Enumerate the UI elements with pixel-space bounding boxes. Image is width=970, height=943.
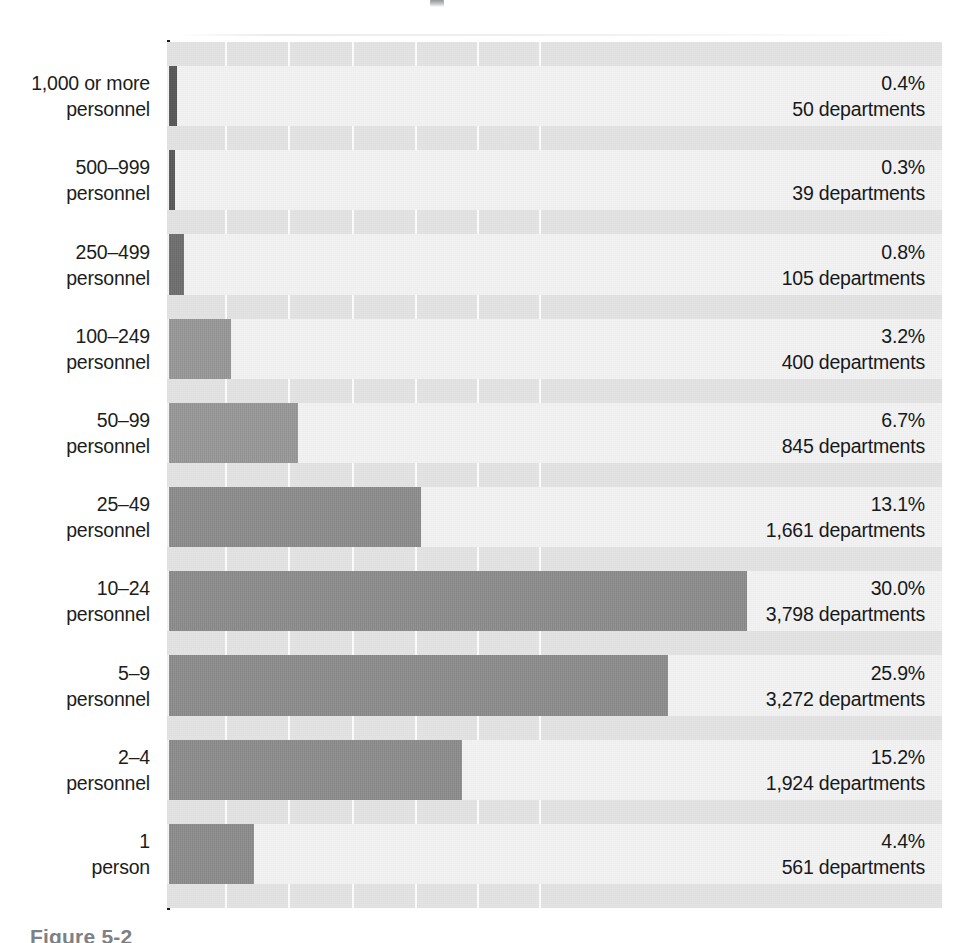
category-label-line1: 500–999: [66, 154, 150, 180]
category-label: 25–49personnel: [66, 491, 150, 543]
category-label: 5–9personnel: [66, 660, 150, 712]
category-label-line2: personnel: [66, 180, 150, 206]
bar: [169, 403, 298, 463]
bar: [169, 824, 254, 884]
category-label-line2: personnel: [66, 265, 150, 291]
value-label-count: 561 departments: [782, 854, 925, 880]
value-label-percent: 0.3%: [792, 154, 925, 180]
value-label-percent: 3.2%: [782, 323, 925, 349]
value-label: 3.2%400 departments: [782, 323, 925, 375]
bar: [169, 66, 177, 126]
bar: [169, 740, 462, 800]
bar: [169, 655, 668, 715]
category-label: 100–249personnel: [66, 323, 150, 375]
category-label-line1: 250–499: [66, 239, 150, 265]
category-label-line2: personnel: [66, 517, 150, 543]
value-label: 15.2%1,924 departments: [766, 744, 925, 796]
value-label: 0.3%39 departments: [792, 154, 925, 206]
value-label: 0.4%50 departments: [792, 70, 925, 122]
value-label-percent: 30.0%: [766, 575, 925, 601]
category-label-line2: personnel: [66, 433, 150, 459]
value-label-percent: 15.2%: [766, 744, 925, 770]
value-label: 25.9%3,272 departments: [766, 660, 925, 712]
category-label: 50–99personnel: [66, 407, 150, 459]
value-label-percent: 0.4%: [792, 70, 925, 96]
bar: [169, 150, 175, 210]
page-hairline: [180, 34, 925, 36]
value-label-count: 105 departments: [782, 265, 925, 291]
bar: [169, 571, 747, 631]
category-label-line2: personnel: [66, 601, 150, 627]
value-label-count: 50 departments: [792, 96, 925, 122]
value-label-count: 1,661 departments: [766, 517, 925, 543]
figure-caption: Figure 5-2: [30, 925, 132, 943]
bar: [169, 234, 184, 294]
category-label: 1,000 or morepersonnel: [31, 70, 150, 122]
category-label-line1: 50–99: [66, 407, 150, 433]
value-label-count: 845 departments: [782, 433, 925, 459]
category-label-line1: 10–24: [66, 575, 150, 601]
value-label-count: 400 departments: [782, 349, 925, 375]
value-label-count: 3,798 departments: [766, 601, 925, 627]
value-label: 13.1%1,661 departments: [766, 491, 925, 543]
value-label: 4.4%561 departments: [782, 828, 925, 880]
category-label: 10–24personnel: [66, 575, 150, 627]
category-label-line2: personnel: [66, 349, 150, 375]
value-label-count: 3,272 departments: [766, 686, 925, 712]
bar: [169, 487, 421, 547]
category-label: 500–999personnel: [66, 154, 150, 206]
category-label-line1: 1: [92, 828, 150, 854]
value-label: 6.7%845 departments: [782, 407, 925, 459]
category-label-line2: person: [92, 854, 150, 880]
value-label-percent: 13.1%: [766, 491, 925, 517]
category-label: 2–4personnel: [66, 744, 150, 796]
category-label-line2: personnel: [31, 96, 150, 122]
value-label-count: 39 departments: [792, 180, 925, 206]
figure-container: 1,000 or morepersonnel500–999personnel25…: [0, 0, 970, 943]
value-label: 30.0%3,798 departments: [766, 575, 925, 627]
value-label-percent: 0.8%: [782, 239, 925, 265]
value-label-percent: 4.4%: [782, 828, 925, 854]
category-label-line2: personnel: [66, 770, 150, 796]
category-label-line2: personnel: [66, 686, 150, 712]
cropped-headline-fragment: [430, 0, 444, 7]
value-label-percent: 6.7%: [782, 407, 925, 433]
bar: [169, 319, 231, 379]
value-label: 0.8%105 departments: [782, 239, 925, 291]
value-label-percent: 25.9%: [766, 660, 925, 686]
category-label: 250–499personnel: [66, 239, 150, 291]
category-label-line1: 1,000 or more: [31, 70, 150, 96]
category-label-line1: 100–249: [66, 323, 150, 349]
category-label-line1: 2–4: [66, 744, 150, 770]
value-label-count: 1,924 departments: [766, 770, 925, 796]
category-label-line1: 5–9: [66, 660, 150, 686]
category-label-line1: 25–49: [66, 491, 150, 517]
category-label: 1person: [92, 828, 150, 880]
